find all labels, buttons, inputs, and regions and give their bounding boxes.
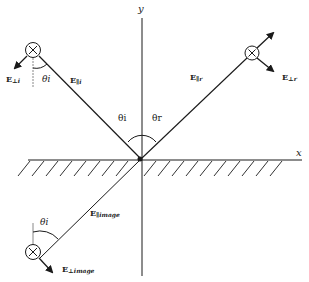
conductor-hatching (18, 161, 282, 176)
theta-r-label: θr (152, 113, 162, 123)
reflected-field-into-page-icon (245, 46, 259, 60)
E-par-r-arrow (257, 33, 273, 48)
E-perp-image-label: E⊥image (62, 264, 95, 275)
E-perp-image-arrow (39, 258, 52, 272)
image-theta-arc (33, 231, 58, 239)
x-axis-label: x (296, 147, 302, 158)
reflection-diagram: y x θi θr θi E⊥i (0, 0, 309, 282)
theta-i-label: θi (118, 113, 126, 123)
E-perp-r-arrow (257, 58, 273, 71)
E-par-i-label: E∥i (70, 75, 82, 85)
E-perp-i-label: E⊥i (6, 74, 21, 84)
origin-point (138, 157, 143, 162)
E-perp-r-label: E⊥r (282, 72, 298, 82)
image-field-into-page-icon (26, 245, 41, 260)
incident-theta-label: θi (42, 74, 50, 84)
E-par-image-label: E∥image (90, 208, 120, 219)
incident-field-into-page-icon (26, 43, 41, 58)
E-par-r-label: E∥r (190, 72, 203, 82)
E-perp-i-arrow (15, 56, 27, 68)
incident-ray (39, 56, 140, 158)
image-theta-label: θi (40, 217, 48, 227)
incident-theta-arc (33, 64, 47, 68)
y-axis-label: y (137, 3, 144, 14)
